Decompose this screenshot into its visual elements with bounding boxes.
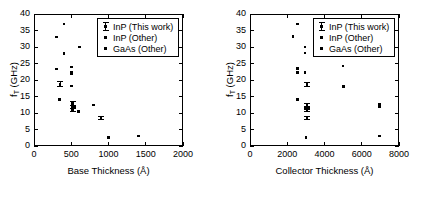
y-tick <box>250 14 254 15</box>
y-tick <box>250 96 254 97</box>
y-tick <box>34 129 38 130</box>
small-dot-glyph <box>104 47 107 50</box>
y-axis-label-subscript: T <box>229 90 236 94</box>
x-tick-label: 0 <box>14 150 54 159</box>
legend-item: InP (Other) <box>316 32 391 43</box>
data-point-errorbar <box>304 116 310 121</box>
chart-panel-left: 05001000150020000510152025303540Base Thi… <box>0 0 215 201</box>
errorbar-glyph-part <box>320 25 323 28</box>
data-point-inp-other <box>73 106 76 109</box>
y-axis-label-symbol: f <box>224 94 235 97</box>
data-point-inp-other <box>77 110 80 113</box>
legend-label: InP (This work) <box>329 22 389 32</box>
errorbar-marker <box>59 83 62 86</box>
x-tick-label: 2000 <box>267 150 307 159</box>
chart-panel-right: 020004000600080000510152025303540Collect… <box>216 0 431 201</box>
y-tick-right <box>395 14 399 15</box>
y-tick <box>250 30 254 31</box>
y-tick-right <box>179 30 183 31</box>
data-point-gaas-other <box>63 23 66 26</box>
y-tick <box>34 63 38 64</box>
y-tick-right <box>395 63 399 64</box>
x-tick-label: 6000 <box>342 150 382 159</box>
filled-circle-medium-icon <box>316 32 328 43</box>
data-point-gaas-other <box>55 36 58 39</box>
filled-circle-small-icon <box>100 43 112 54</box>
x-tick-label: 1000 <box>89 150 129 159</box>
data-point-gaas-other <box>92 104 95 107</box>
data-point-gaas-other <box>296 67 299 70</box>
y-tick-right <box>179 63 183 64</box>
x-tick <box>145 142 146 146</box>
y-tick-label: 35 <box>216 26 246 35</box>
legend-item: InP (This work) <box>100 21 175 32</box>
data-point-gaas-other <box>55 68 58 71</box>
data-point-gaas-other <box>78 46 81 49</box>
errorbar-marker <box>306 109 309 112</box>
x-tick <box>287 142 288 146</box>
y-tick-right <box>179 80 183 81</box>
legend-item: GaAs (Other) <box>100 43 175 54</box>
data-point-gaas-other <box>304 52 307 55</box>
x-tick-label: 2000 <box>163 150 203 159</box>
errorbar-marker <box>306 117 309 120</box>
data-point-gaas-other <box>137 135 140 138</box>
legend-label: GaAs (Other) <box>329 44 383 54</box>
y-tick-right <box>395 47 399 48</box>
errorbar-glyph-part <box>104 25 107 28</box>
x-tick-top <box>34 14 35 18</box>
x-tick <box>108 142 109 146</box>
y-tick-right <box>179 47 183 48</box>
data-point-inp-other <box>296 98 299 101</box>
x-tick-label: 1500 <box>126 150 166 159</box>
errorbar-icon <box>316 21 328 32</box>
data-point-gaas-other <box>70 73 73 76</box>
y-axis-label: fT (GHz) <box>224 45 235 115</box>
legend-item: InP (Other) <box>100 32 175 43</box>
errorbar-glyph-part <box>103 22 109 23</box>
y-tick <box>34 47 38 48</box>
y-axis-label-subscript: T <box>13 90 20 94</box>
data-point-inp-other <box>342 85 345 88</box>
x-tick <box>361 142 362 146</box>
errorbar-glyph-part <box>103 30 109 31</box>
errorbar-glyph-part <box>319 30 325 31</box>
data-point-gaas-other <box>296 71 299 74</box>
errorbar-cap-bottom <box>57 86 63 87</box>
errorbar-marker <box>100 117 103 120</box>
y-tick-label: 40 <box>0 9 30 18</box>
data-point-gaas-other <box>296 23 299 26</box>
errorbar-cap-bottom <box>304 119 310 120</box>
y-tick-right <box>395 113 399 114</box>
y-tick <box>250 146 254 147</box>
filled-circle-medium-icon <box>100 32 112 43</box>
errorbar-cap-bottom <box>304 86 310 87</box>
x-tick-label: 4000 <box>305 150 345 159</box>
data-point-gaas-other <box>63 52 66 55</box>
y-tick <box>34 113 38 114</box>
data-point-errorbar <box>98 116 104 120</box>
data-point-gaas-other <box>292 35 295 38</box>
legend-label: InP (Other) <box>113 33 157 43</box>
small-dot-glyph <box>320 47 323 50</box>
y-tick <box>34 96 38 97</box>
legend-label: InP (This work) <box>113 22 173 32</box>
x-tick-label: 0 <box>230 150 270 159</box>
x-tick-top <box>71 14 72 18</box>
filled-circle-small-icon <box>316 43 328 54</box>
y-tick-right <box>395 129 399 130</box>
y-tick-right <box>395 96 399 97</box>
y-tick-label: 35 <box>0 26 30 35</box>
errorbar-marker <box>306 83 309 86</box>
y-axis-label-symbol: f <box>8 94 19 97</box>
y-tick <box>34 30 38 31</box>
x-axis-label: Collector Thickness (Å) <box>250 165 399 176</box>
y-tick <box>34 146 38 147</box>
y-tick-label: 40 <box>216 9 246 18</box>
y-tick-label: 5 <box>216 125 246 134</box>
data-point-errorbar <box>304 82 310 87</box>
data-point-inp-other <box>378 105 381 108</box>
figure-root: 05001000150020000510152025303540Base Thi… <box>0 0 431 201</box>
y-axis-label-unit: (GHz) <box>224 62 235 90</box>
legend: InP (This work)InP (Other)GaAs (Other) <box>313 18 395 57</box>
